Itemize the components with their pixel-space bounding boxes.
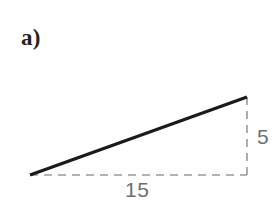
rise-dimension-label: 5 bbox=[257, 126, 269, 147]
hypotenuse-slope-line bbox=[30, 97, 247, 175]
triangle-canvas bbox=[0, 0, 277, 205]
slope-triangle-figure: a) 5 15 bbox=[0, 0, 277, 205]
panel-letter-label: a) bbox=[21, 26, 41, 49]
run-dimension-label: 15 bbox=[125, 179, 149, 200]
